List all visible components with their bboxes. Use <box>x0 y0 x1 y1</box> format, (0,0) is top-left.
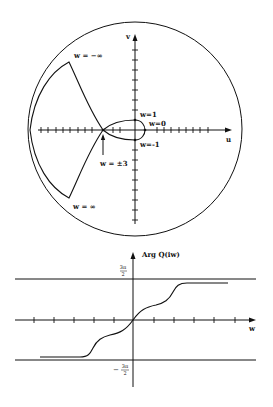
point-wneg1 <box>134 139 137 142</box>
label-w-zero: w=0 <box>148 119 166 128</box>
point-w0 <box>144 129 147 132</box>
label-w-pm3: w = ±3 <box>99 159 128 168</box>
lower-bound-label: − 3π 2 <box>113 363 129 376</box>
label-w-pos-inf: w = ∞ <box>72 202 96 211</box>
nyquist-labels: v u w = −∞ w = ∞ w=1 w=0 w=-1 w = ±3 <box>72 32 231 211</box>
svg-text:3π: 3π <box>120 264 127 270</box>
phase-ylabel: Arg Q(iw) <box>141 250 180 259</box>
phase-xlabel: w <box>248 324 256 333</box>
nyquist-plot <box>28 22 242 236</box>
diagram-canvas: v u w = −∞ w = ∞ w=1 w=0 w=-1 w = ±3 <box>0 0 273 407</box>
label-w-one: w=1 <box>139 110 157 119</box>
v-axis-arrow <box>133 34 138 41</box>
svg-text:−: − <box>113 366 119 374</box>
svg-text:2: 2 <box>121 271 124 277</box>
label-w-neg-one: w=-1 <box>139 140 160 149</box>
svg-text:2: 2 <box>123 370 126 376</box>
upper-bound-label: 3π 2 <box>120 264 127 277</box>
point-wpm3 <box>102 129 105 132</box>
pm3-pointer-arrowhead <box>101 134 105 140</box>
u-axis-label: u <box>226 135 231 144</box>
svg-text:3π: 3π <box>122 363 129 369</box>
phase-labels: Arg Q(iw) w 3π 2 − 3π 2 <box>113 250 256 376</box>
u-axis-arrow <box>225 128 232 133</box>
w-axis-arrow <box>249 318 256 323</box>
point-w1 <box>134 119 137 122</box>
v-axis-label: v <box>125 32 131 41</box>
arg-axis-arrow <box>131 252 136 259</box>
label-w-neg-inf: w = −∞ <box>73 51 103 60</box>
phase-plot <box>15 252 256 387</box>
